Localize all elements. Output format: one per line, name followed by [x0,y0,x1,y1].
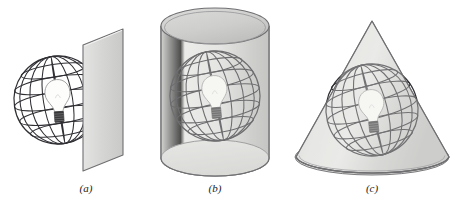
panel-a-caption: (a) [80,182,93,195]
cylinder-front-wash [161,26,269,176]
panel-b-caption: (b) [209,182,222,195]
figure-root: (a) (b) [0,0,473,202]
panel-b-cylindrical-projection: (b) [161,8,269,195]
planar-projection-surface [83,29,123,171]
panel-c-caption: (c) [366,182,379,195]
map-projection-figure: (a) (b) [0,0,473,202]
